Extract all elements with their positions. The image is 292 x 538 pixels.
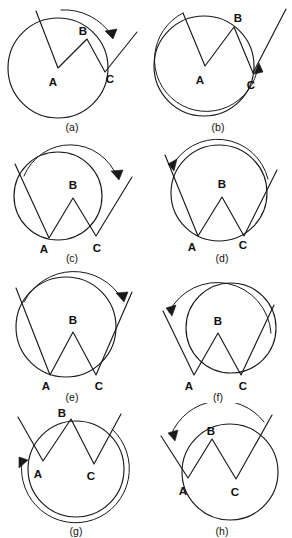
- figure-sheet: A B C (a) A B C (b) A B C: [0, 0, 292, 538]
- panel-f-drawing: A B C (f): [146, 265, 292, 403]
- panel-g-drawing: A B C (g): [0, 403, 146, 538]
- circle-h: [182, 424, 278, 520]
- vertex-label-a: A: [42, 380, 50, 392]
- panel-d: A B C (d): [146, 135, 292, 265]
- panel-caption-f: (f): [213, 391, 223, 403]
- panel-caption-a: (a): [66, 121, 79, 133]
- panel-caption-d: (d): [216, 252, 229, 264]
- panel-d-drawing: A B C (d): [146, 135, 292, 265]
- panel-a: A B C (a): [0, 0, 146, 135]
- zigzag-path-e: [16, 288, 132, 375]
- vertex-label-a: A: [196, 74, 204, 86]
- vertex-label-a: A: [34, 468, 42, 480]
- vertex-label-a: A: [40, 243, 48, 255]
- panel-caption-h: (h): [216, 525, 229, 537]
- vertex-label-c: C: [93, 242, 101, 254]
- circle-f: [186, 283, 276, 373]
- arrow-head-c: [111, 170, 123, 180]
- zigzag-path-g: [18, 414, 121, 464]
- panel-caption-g: (g): [70, 525, 83, 537]
- vertex-label-c: C: [239, 380, 247, 392]
- arrow-head-f: [166, 305, 176, 316]
- panel-caption-e: (e): [66, 391, 79, 403]
- vertex-label-b: B: [69, 179, 77, 191]
- vertex-label-b: B: [218, 178, 226, 190]
- vertex-label-c: C: [95, 380, 103, 392]
- panel-g: A B C (g): [0, 403, 146, 538]
- vertex-label-c: C: [87, 470, 95, 482]
- panel-caption-b: (b): [212, 121, 225, 133]
- vertex-label-c: C: [106, 73, 114, 85]
- circle-d: [171, 145, 267, 241]
- vertex-label-c: C: [247, 79, 255, 91]
- rotation-arc-b: [154, 13, 258, 111]
- zigzag-path-a: [36, 11, 137, 72]
- panel-h: A B C (h): [146, 403, 292, 538]
- panel-c: A B C (c): [0, 135, 146, 265]
- vertex-label-b: B: [207, 425, 215, 437]
- vertex-label-b: B: [79, 25, 87, 37]
- vertex-label-c: C: [231, 486, 239, 498]
- vertex-label-b: B: [214, 315, 222, 327]
- arrow-head-a: [105, 29, 117, 39]
- rotation-arc-e: [24, 272, 122, 302]
- arrow-head-g: [19, 457, 28, 468]
- panel-b-drawing: A B C (b): [146, 0, 292, 135]
- arrow-head-h: [168, 430, 178, 441]
- rotation-arc-h: [171, 403, 264, 435]
- arrow-head-e: [116, 292, 128, 302]
- panel-h-drawing: A B C (h): [146, 403, 292, 538]
- rotation-arc-c: [24, 145, 117, 177]
- arrow-head-d: [168, 159, 177, 171]
- panel-c-drawing: A B C (c): [0, 135, 146, 265]
- circle-b: [154, 16, 254, 116]
- vertex-label-b: B: [58, 407, 66, 419]
- vertex-label-b: B: [69, 314, 77, 326]
- vertex-label-a: A: [188, 241, 196, 253]
- circle-c: [14, 152, 102, 240]
- panel-e: A B C (e): [0, 265, 146, 403]
- panel-e-drawing: A B C (e): [0, 265, 146, 403]
- vertex-label-b: B: [234, 12, 242, 24]
- panel-a-drawing: A B C (a): [0, 0, 146, 135]
- zigzag-path-h: [161, 415, 272, 479]
- vertex-label-a: A: [49, 76, 57, 88]
- vertex-label-a: A: [179, 485, 187, 497]
- panel-f: A B C (f): [146, 265, 292, 403]
- panel-b: A B C (b): [146, 0, 292, 135]
- vertex-label-a: A: [185, 380, 193, 392]
- panel-caption-c: (c): [66, 252, 78, 264]
- vertex-label-c: C: [239, 239, 247, 251]
